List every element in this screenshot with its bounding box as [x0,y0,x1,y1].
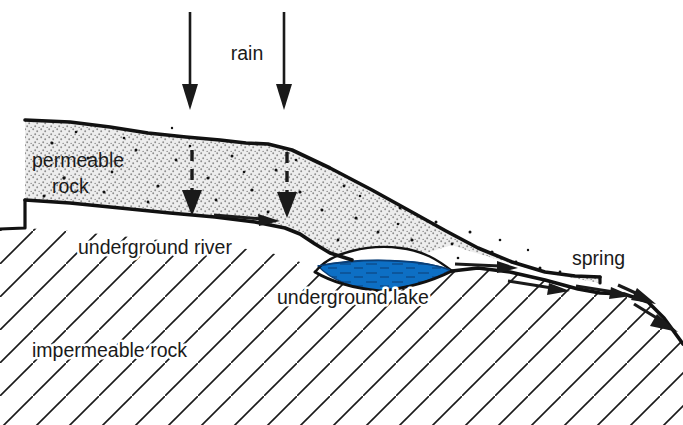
label-spring: spring [572,247,625,269]
label-rain: rain [231,42,264,64]
groundwater-cross-section-diagram: rain permeable rock underground river un… [0,0,683,425]
boundary-left-edge [0,200,25,229]
label-underground-lake: underground lake [277,286,429,308]
label-permeable-rock-line1: permeable [32,149,124,171]
label-permeable-rock-line2: rock [52,175,89,197]
rain-arrow-right [276,12,292,110]
label-impermeable-rock: impermeable rock [32,339,187,361]
diagram-root: rain permeable rock underground river un… [0,0,683,425]
label-underground-river: underground river [78,236,232,258]
rain-arrow-left [182,12,198,110]
